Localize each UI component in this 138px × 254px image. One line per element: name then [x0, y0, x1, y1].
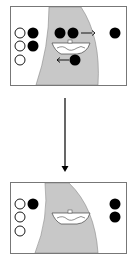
- hollow-token: [15, 199, 25, 209]
- filled-token: [110, 199, 121, 210]
- hollow-token: [15, 212, 25, 222]
- state-after-panel: [10, 182, 127, 254]
- left-bank-group: [15, 199, 39, 237]
- filled-token: [28, 199, 39, 210]
- hollow-token: [15, 226, 25, 236]
- filled-token: [110, 212, 121, 223]
- right-bank-group: [110, 199, 121, 223]
